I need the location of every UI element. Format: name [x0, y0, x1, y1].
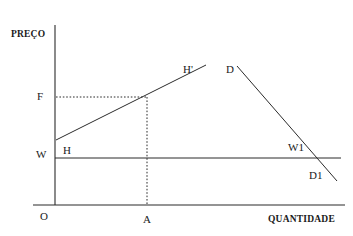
- demand-line-d: [237, 66, 337, 181]
- curve-label-d: D: [226, 64, 234, 75]
- x-tick-label-a: A: [143, 214, 151, 225]
- diagram-canvas: [0, 0, 353, 236]
- curve-label-d1: D1: [309, 170, 322, 181]
- y-axis-title: PREÇO: [11, 30, 45, 40]
- curve-label-w1: W1: [288, 142, 304, 153]
- curve-label-h-prime: H': [183, 64, 193, 75]
- origin-label: O: [40, 211, 48, 222]
- curve-label-h: H: [63, 145, 71, 156]
- supply-line-h: [56, 65, 206, 140]
- y-tick-label-w: W: [36, 149, 46, 160]
- x-axis-title: QUANTIDADE: [268, 215, 335, 225]
- economics-diagram: PREÇO QUANTIDADE O F W A H H' D W1 D1: [0, 0, 353, 236]
- y-tick-label-f: F: [37, 91, 43, 102]
